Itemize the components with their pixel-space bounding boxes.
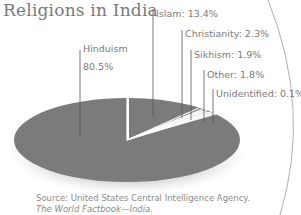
- label-unidentified: Unidentified: 0.1%: [216, 88, 301, 99]
- source-line-1: Source: United States Central Intelligen…: [36, 193, 250, 203]
- label-hinduism-value: 80.5%: [83, 61, 113, 72]
- label-sikhism: Sikhism: 1.9%: [194, 49, 261, 60]
- source-line-2: The World Factbook—India.: [36, 204, 153, 214]
- label-other: Other: 1.8%: [207, 69, 264, 80]
- label-hinduism-name: Hinduism: [83, 43, 128, 54]
- label-christianity: Christianity: 2.3%: [185, 28, 269, 39]
- decorative-arc: [268, 0, 293, 215]
- hinduism-islam-gap: [127, 98, 129, 140]
- label-islam: Islam: 13.4%: [156, 8, 218, 19]
